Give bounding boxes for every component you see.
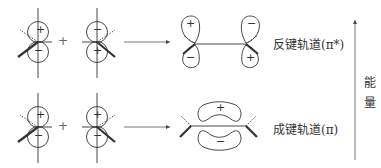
p-orbital-right-top bbox=[82, 8, 115, 78]
p-orbital-left-top bbox=[18, 8, 52, 78]
lobe-sign-left-top: + bbox=[186, 17, 195, 30]
energy-label-char2: 量 bbox=[364, 93, 376, 110]
sign-left-top-lower: − bbox=[34, 44, 43, 57]
lobe-sign-right-top: − bbox=[247, 17, 256, 30]
sign-left-bottom-upper: + bbox=[36, 108, 45, 121]
sign-right-bottom-upper: + bbox=[93, 108, 102, 121]
lobe-sign-right-bottom: + bbox=[246, 51, 255, 64]
lobe-sign-top: + bbox=[216, 101, 225, 114]
energy-label-char1: 能 bbox=[364, 73, 376, 90]
sign-left-top-upper: + bbox=[36, 23, 45, 36]
lobe-sign-left-bottom: − bbox=[186, 51, 195, 64]
bonding-label: 成键轨道(π) bbox=[273, 120, 338, 137]
sign-right-top-lower: + bbox=[93, 44, 102, 57]
sign-right-top-upper: − bbox=[93, 23, 102, 36]
sign-right-bottom-lower: − bbox=[93, 129, 102, 142]
p-orbital-right-bottom bbox=[82, 93, 115, 163]
p-orbital-left-bottom bbox=[18, 93, 52, 163]
sign-left-bottom-lower: − bbox=[34, 129, 43, 142]
antibonding-label: 反键轨道(π*) bbox=[273, 35, 344, 52]
lobe-sign-bottom: − bbox=[216, 135, 225, 148]
plus-operator-top: + bbox=[58, 34, 68, 48]
plus-operator-bottom: + bbox=[58, 119, 68, 133]
